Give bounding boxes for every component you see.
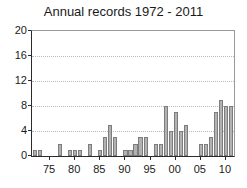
x-tick-label: 85 [93,163,105,175]
bar [199,144,203,157]
x-tick-mark [49,157,50,160]
x-tick-mark [150,157,151,160]
bar [133,144,137,157]
x-tick-mark [74,157,75,160]
x-tick-label: 05 [194,163,206,175]
bar [164,106,168,156]
y-tick-label: 16 [15,49,27,61]
y-tick-label: 0 [21,149,27,161]
bar [33,150,37,156]
bar [209,137,213,156]
bar [108,125,112,156]
x-tick-label: 10 [219,163,231,175]
y-tick-label: 4 [21,124,27,136]
x-tick-label: 95 [143,163,155,175]
bar [154,144,158,157]
bar [138,137,142,156]
bar [128,150,132,156]
chart-figure: Annual records 1972 - 2011 048121620 758… [0,0,247,188]
bar [68,150,72,156]
x-tick-label: 75 [43,163,55,175]
bar [229,106,233,156]
y-axis: 048121620 [0,0,31,188]
x-tick-label: 90 [118,163,130,175]
x-tick-mark [99,157,100,160]
bar [88,144,92,157]
bar [184,125,188,156]
bar [103,137,107,156]
x-axis: 7580859095000510 [31,157,233,179]
bar [113,137,117,156]
bar [73,150,77,156]
bar [144,137,148,156]
bar-series [32,31,234,156]
y-tick-label: 12 [15,74,27,86]
x-tick-label: 80 [68,163,80,175]
bar [204,144,208,157]
x-tick-mark [225,157,226,160]
plot-area [31,30,235,157]
bar [179,131,183,156]
bar [224,106,228,156]
x-tick-label: 00 [169,163,181,175]
bar [58,144,62,157]
bar [123,150,127,156]
y-tick-label: 20 [15,24,27,36]
bar [169,131,173,156]
x-tick-mark [124,157,125,160]
x-tick-mark [175,157,176,160]
bar [78,150,82,156]
bar [219,100,223,156]
bar [174,112,178,156]
bar [159,144,163,157]
y-tick-label: 8 [21,99,27,111]
chart-title: Annual records 1972 - 2011 [0,4,247,19]
bar [98,150,102,156]
bar [214,112,218,156]
bar [38,150,42,156]
x-tick-mark [200,157,201,160]
